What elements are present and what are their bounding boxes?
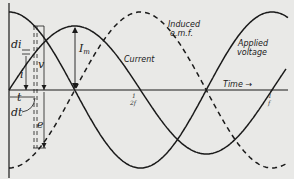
arrowhead-down-icon xyxy=(42,85,47,90)
half-period-denominator: 2f xyxy=(129,99,138,107)
induced-emf-label-2: e.m.f. xyxy=(170,29,193,38)
period-numerator: 1 xyxy=(268,92,272,99)
period-denominator: f xyxy=(267,99,272,107)
peak-current-label: Im xyxy=(78,42,90,56)
applied-voltage-label-2: voltage xyxy=(237,48,267,57)
applied-voltage-label-1: Applied xyxy=(237,39,269,48)
dt-leader xyxy=(22,98,35,112)
current-label: Current xyxy=(124,55,155,64)
arrowhead-up-icon xyxy=(72,27,78,33)
voltage-symbol: v xyxy=(38,58,45,71)
arrowhead-down-icon xyxy=(24,85,29,90)
sine-wave-diagram: Im v e i di t dt Induced e.m.f. Applied … xyxy=(0,0,294,179)
current-symbol: i xyxy=(20,68,24,81)
emf-symbol: e xyxy=(37,118,44,131)
time-label: Time → xyxy=(223,80,252,89)
arrowhead-down-icon xyxy=(42,143,47,148)
dt-label: dt xyxy=(11,106,23,119)
induced-emf-label-1: Induced xyxy=(168,20,201,29)
di-label: di xyxy=(11,38,22,51)
half-period-numerator: 1 xyxy=(132,92,136,99)
t-label: t xyxy=(17,91,22,104)
